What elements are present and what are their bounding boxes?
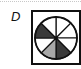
pie-circle-icon (33, 12, 79, 63)
option-label: D (11, 10, 20, 23)
dotted-divider (0, 1, 81, 2)
fraction-circle-figure[interactable] (31, 10, 81, 65)
